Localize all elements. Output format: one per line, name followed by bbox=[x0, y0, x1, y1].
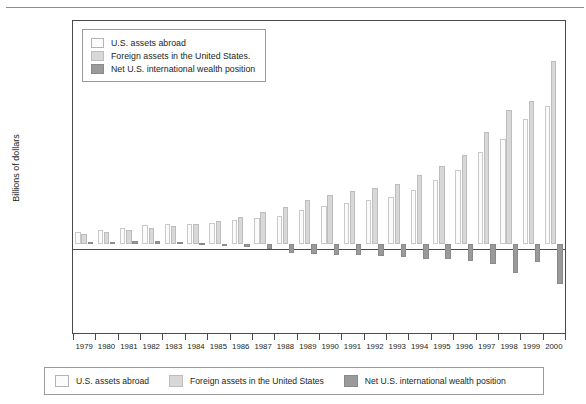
bar bbox=[260, 212, 265, 244]
bar bbox=[187, 224, 192, 244]
x-axis-tick-label: 1983 bbox=[165, 342, 182, 351]
x-axis-tick-mark bbox=[453, 334, 454, 340]
bar-group bbox=[543, 21, 565, 333]
bar bbox=[372, 188, 377, 244]
bar-group bbox=[341, 21, 363, 333]
bar bbox=[81, 234, 86, 243]
bar bbox=[395, 184, 400, 244]
bar-group bbox=[297, 21, 319, 333]
x-axis-tick-mark bbox=[162, 334, 163, 340]
x-axis-tick-mark bbox=[230, 334, 231, 340]
legend-item-label: U.S. assets abroad bbox=[76, 376, 149, 386]
legend-swatch-icon bbox=[344, 375, 358, 387]
x-axis-tick-mark bbox=[252, 334, 253, 340]
bar bbox=[366, 200, 371, 243]
bar bbox=[267, 244, 272, 250]
bar-group bbox=[453, 21, 475, 333]
bar bbox=[321, 206, 326, 244]
bar-group bbox=[364, 21, 386, 333]
chart-figure: 10,0008,0006,0004,0002,0000(2,000)(4,000… bbox=[0, 0, 586, 404]
bar bbox=[283, 207, 288, 244]
x-axis-tick-label: 1981 bbox=[120, 342, 137, 351]
bar bbox=[557, 244, 562, 284]
bar bbox=[506, 110, 511, 244]
x-axis-tick-mark bbox=[319, 334, 320, 340]
x-axis-tick-label: 1993 bbox=[389, 342, 406, 351]
bar bbox=[350, 191, 355, 243]
x-axis-tick-mark bbox=[431, 334, 432, 340]
bar bbox=[433, 180, 438, 244]
bar bbox=[238, 217, 243, 244]
bar bbox=[327, 195, 332, 244]
inner-legend: U.S. assets abroadForeign assets in the … bbox=[82, 29, 266, 82]
bottom-legend: U.S. assets abroadForeign assets in the … bbox=[44, 367, 544, 395]
x-axis-tick-label: 2000 bbox=[545, 342, 562, 351]
bar bbox=[388, 197, 393, 244]
bar bbox=[468, 244, 473, 261]
legend-item-label: Foreign assets in the United States. bbox=[111, 51, 250, 61]
x-axis-tick-label: 1991 bbox=[344, 342, 361, 351]
bar bbox=[209, 223, 214, 244]
bar bbox=[334, 244, 339, 255]
bar bbox=[222, 244, 227, 246]
legend-item: Foreign assets in the United States bbox=[169, 375, 324, 387]
bar bbox=[165, 224, 170, 244]
legend-item: U.S. assets abroad bbox=[91, 36, 255, 49]
bar bbox=[462, 155, 467, 244]
bar bbox=[110, 242, 115, 244]
bar bbox=[232, 220, 237, 244]
bar bbox=[171, 226, 176, 244]
bar-group bbox=[476, 21, 498, 333]
bar bbox=[177, 242, 182, 244]
bar bbox=[401, 244, 406, 257]
x-axis-tick-label: 1986 bbox=[232, 342, 249, 351]
x-axis-tick-mark bbox=[520, 334, 521, 340]
bar bbox=[378, 244, 383, 256]
bar-group bbox=[386, 21, 408, 333]
bar bbox=[311, 244, 316, 254]
bar bbox=[484, 132, 489, 243]
bar-group bbox=[274, 21, 296, 333]
x-axis: 1979198019811982198319841985198619871988… bbox=[72, 334, 566, 360]
x-axis-tick-label: 1997 bbox=[478, 342, 495, 351]
x-axis-tick-mark bbox=[408, 334, 409, 340]
legend-item-label: Foreign assets in the United States bbox=[190, 376, 324, 386]
bar-group bbox=[520, 21, 542, 333]
x-axis-tick-label: 1998 bbox=[500, 342, 517, 351]
x-axis-tick-label: 1995 bbox=[433, 342, 450, 351]
bar bbox=[513, 244, 518, 273]
x-axis-tick-mark bbox=[476, 334, 477, 340]
x-axis-tick-mark bbox=[543, 334, 544, 340]
x-axis-tick-mark bbox=[498, 334, 499, 340]
bar bbox=[88, 242, 93, 244]
bar bbox=[417, 175, 422, 244]
bar bbox=[299, 210, 304, 243]
x-axis-tick-mark bbox=[185, 334, 186, 340]
x-axis-tick-label: 1996 bbox=[456, 342, 473, 351]
bar bbox=[155, 241, 160, 244]
bar bbox=[411, 190, 416, 243]
x-axis-tick-mark bbox=[341, 334, 342, 340]
legend-swatch-icon bbox=[55, 375, 69, 387]
x-axis-tick-label: 1982 bbox=[143, 342, 160, 351]
legend-item: U.S. assets abroad bbox=[55, 375, 149, 387]
x-axis-tick-mark bbox=[274, 334, 275, 340]
x-axis-tick-mark bbox=[140, 334, 141, 340]
x-axis-tick-label: 1979 bbox=[75, 342, 92, 351]
bar bbox=[490, 244, 495, 264]
bar bbox=[149, 228, 154, 244]
x-axis-tick-mark bbox=[207, 334, 208, 340]
x-axis-tick-mark bbox=[364, 334, 365, 340]
bar bbox=[216, 221, 221, 244]
bar bbox=[523, 119, 528, 244]
bar bbox=[104, 232, 109, 244]
bar bbox=[305, 200, 310, 243]
x-axis-tick-label: 1987 bbox=[254, 342, 271, 351]
bar bbox=[126, 230, 131, 244]
bar bbox=[277, 216, 282, 244]
bar bbox=[545, 106, 550, 244]
x-axis-tick-mark bbox=[386, 334, 387, 340]
top-divider-rule bbox=[6, 7, 584, 8]
legend-item-label: U.S. assets abroad bbox=[111, 38, 186, 48]
bar bbox=[500, 139, 505, 244]
